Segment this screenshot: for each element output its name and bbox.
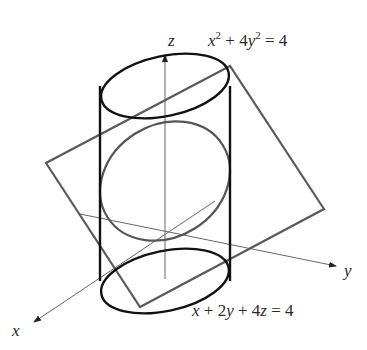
cylinder-equation: x2 + 4y2 = 4 (207, 29, 288, 50)
y-axis-label: y (342, 261, 352, 280)
plane (46, 66, 324, 307)
y-axis (80, 214, 336, 266)
plane-equation: x + 2y + 4z = 4 (191, 301, 294, 320)
x-axis (34, 201, 215, 322)
cylinder-plane-intersection-diagram: z y x x2 + 4y2 = 4 x + 2y + 4z = 4 (0, 0, 367, 350)
z-axis-label: z (167, 31, 175, 50)
x-axis-label: x (11, 321, 20, 340)
